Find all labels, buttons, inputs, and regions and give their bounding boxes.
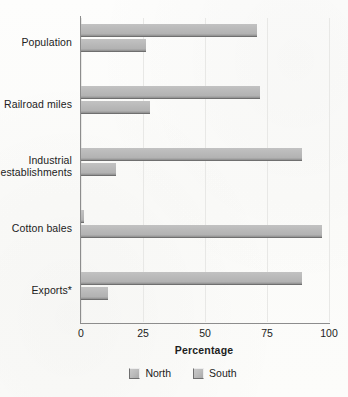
- bar-row-north: [81, 86, 329, 99]
- bar-row-north: [81, 24, 329, 37]
- bar-group-exports: [81, 272, 329, 302]
- xtick-label-50: 50: [185, 327, 225, 339]
- gridline-100: [329, 18, 330, 322]
- xtick-label-25: 25: [123, 327, 163, 339]
- category-label-cotton-bales: Cotton bales: [0, 222, 72, 234]
- x-axis-title: Percentage: [0, 344, 348, 356]
- category-label-exports: Exports*: [0, 284, 72, 296]
- bar-row-south: [81, 225, 329, 238]
- legend-label-north: North: [145, 367, 171, 379]
- bar-row-south: [81, 101, 329, 114]
- category-label-railroad-miles: Railroad miles: [0, 98, 72, 110]
- bar-industrial-establishments-north[interactable]: [81, 148, 302, 161]
- plot-area: [81, 18, 329, 322]
- legend-swatch-north-icon: [129, 368, 140, 379]
- bar-row-south: [81, 39, 329, 52]
- legend-item-south[interactable]: South: [193, 367, 236, 379]
- bar-group-industrial-establishments: [81, 148, 329, 178]
- category-label-line-1: Industrial: [0, 154, 72, 166]
- xtick-label-75: 75: [247, 327, 287, 339]
- y-axis-line: [80, 16, 81, 324]
- bar-row-south: [81, 163, 329, 176]
- bar-row-south: [81, 287, 329, 300]
- xtick-label-100: 100: [309, 327, 348, 339]
- bar-exports-south[interactable]: [81, 287, 108, 300]
- bar-population-north[interactable]: [81, 24, 257, 37]
- legend-label-south: South: [209, 367, 236, 379]
- bar-row-north: [81, 148, 329, 161]
- bar-exports-north[interactable]: [81, 272, 302, 285]
- legend-swatch-south-icon: [193, 368, 204, 379]
- chart-figure: Population Railroad miles Industrial est…: [0, 0, 348, 397]
- category-label-population: Population: [0, 36, 72, 48]
- legend-item-north[interactable]: North: [129, 367, 171, 379]
- bar-row-north: [81, 210, 329, 223]
- bar-railroad-miles-north[interactable]: [81, 86, 260, 99]
- bar-row-north: [81, 272, 329, 285]
- chart-legend: North South: [0, 367, 348, 379]
- bar-group-population: [81, 24, 329, 54]
- bar-industrial-establishments-south[interactable]: [81, 163, 116, 176]
- bar-group-railroad-miles: [81, 86, 329, 116]
- category-label-industrial-establishments: Industrial establishments: [0, 154, 72, 178]
- x-axis-line: [80, 323, 330, 324]
- bar-railroad-miles-south[interactable]: [81, 101, 150, 114]
- bar-cotton-bales-south[interactable]: [81, 225, 322, 238]
- bar-group-cotton-bales: [81, 210, 329, 240]
- bar-population-south[interactable]: [81, 39, 146, 52]
- xtick-label-0: 0: [61, 327, 101, 339]
- category-label-line-2: establishments: [0, 166, 72, 178]
